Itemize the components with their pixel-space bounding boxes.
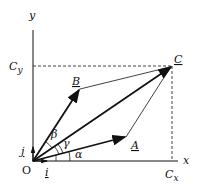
parallelogram-side-bc (80, 67, 170, 89)
vector-c-label: C (174, 53, 183, 66)
angle-alpha-label: α (75, 148, 83, 161)
angle-beta-label: β (50, 128, 57, 141)
angle-gamma-label: γ (63, 137, 70, 150)
cx-label: Cx (165, 168, 179, 183)
angle-alpha-arc (69, 152, 70, 161)
vector-c-arrow (33, 67, 171, 161)
x-axis-label: x (183, 154, 190, 167)
unit-vector-i-label: i (45, 166, 49, 179)
angle-beta-arc (46, 142, 52, 148)
unit-vector-j-label: j (18, 145, 25, 158)
y-axis-label: y (28, 9, 36, 22)
vector-addition-diagram: y x O j i A B C Cy Cx α γ β (0, 0, 198, 188)
cy-label: Cy (9, 60, 23, 75)
vector-a-label: A (130, 139, 139, 152)
vector-b-label: B (71, 75, 80, 88)
origin-label: O (22, 164, 31, 177)
parallelogram-side-ac (126, 68, 170, 137)
angle-gamma-arc-2 (54, 146, 59, 154)
